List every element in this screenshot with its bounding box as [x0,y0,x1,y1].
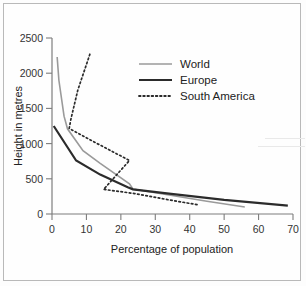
y-tick-label: 0 [37,208,43,220]
y-tick-marks [46,38,52,214]
x-tick-label: 70 [287,223,299,235]
series-line-europe [54,126,288,206]
chart-legend: World Europe South America [139,58,255,102]
x-tick-marks [52,214,293,220]
y-tick-label: 2000 [20,67,44,79]
legend-label-south-america: South America [180,90,255,102]
x-axis-label: Percentage of population [111,243,233,255]
y-tick-label: 2500 [20,32,44,44]
y-tick-label: 500 [25,173,43,185]
chart-screenshot: 2500 2000 1500 1000 500 0 0 10 20 30 40 … [0,0,306,286]
x-tick-label: 60 [253,223,265,235]
x-tick-label: 40 [184,223,196,235]
legend-label-world: World [180,58,210,70]
series-line-south-america [69,54,198,205]
legend-label-europe: Europe [180,74,217,86]
x-tick-label: 20 [115,223,127,235]
x-tick-label: 10 [81,223,93,235]
x-tick-label: 30 [149,223,161,235]
y-axis-label: Height in metres [12,85,24,166]
x-tick-label: 50 [218,223,230,235]
x-tick-labels: 0 10 20 30 40 50 60 70 [49,223,299,235]
x-tick-label: 0 [49,223,55,235]
line-chart: 2500 2000 1500 1000 500 0 0 10 20 30 40 … [0,0,306,286]
